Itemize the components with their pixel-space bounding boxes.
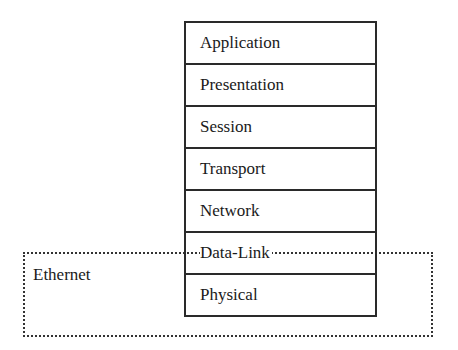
layer-label: Application — [200, 33, 282, 53]
layer-presentation: Presentation — [186, 65, 375, 107]
layer-label: Transport — [200, 159, 268, 179]
layer-label: Data-Link — [200, 243, 272, 263]
layer-label: Physical — [200, 285, 260, 305]
layer-physical: Physical — [186, 275, 375, 317]
osi-layer-stack: Application Presentation Session Transpo… — [184, 21, 377, 317]
layer-transport: Transport — [186, 149, 375, 191]
layer-label: Session — [200, 117, 254, 137]
layer-session: Session — [186, 107, 375, 149]
layer-label: Network — [200, 201, 261, 221]
layer-data-link: Data-Link — [186, 233, 375, 275]
layer-application: Application — [186, 23, 375, 65]
layer-network: Network — [186, 191, 375, 233]
ethernet-label: Ethernet — [33, 265, 91, 285]
layer-label: Presentation — [200, 75, 286, 95]
